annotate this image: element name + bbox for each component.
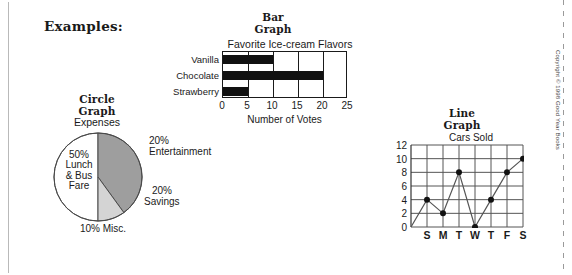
pie-label-entertainment-name: Entertainment	[149, 146, 211, 157]
line-x-tick-label: W	[470, 229, 480, 241]
line-y-tick-label: 12	[396, 140, 407, 151]
perforation-line	[563, 0, 564, 275]
line-x-tick-label: T	[456, 229, 462, 241]
line-x-tick-label: M	[439, 229, 448, 241]
line-graph-block: Line Graph Cars Sold 024681012SMTWTFS	[392, 108, 532, 244]
bar-plot-area: VanillaChocolateStrawberry	[222, 51, 347, 98]
line-chart-svg	[410, 144, 524, 228]
bar-x-tick-label: 15	[291, 100, 302, 111]
line-chart-title: Cars Sold	[410, 132, 532, 143]
line-data-point	[504, 169, 510, 175]
line-y-tick-label: 6	[401, 181, 407, 192]
pie-label-lunch-l2: Lunch	[54, 160, 104, 171]
copyright-notice: Copyright © 1998 Good Year Books	[555, 50, 561, 150]
line-x-tick-label: S	[423, 229, 430, 241]
line-y-tick-label: 10	[396, 153, 407, 164]
bar-graph-title-line2: Graph	[188, 24, 358, 36]
line-data-point	[456, 169, 462, 175]
circle-graph-subtitle: Expenses	[52, 117, 142, 129]
bar-x-tick-label: 5	[244, 100, 250, 111]
page-left-rule	[8, 2, 9, 273]
pie-label-savings: 20% Savings	[144, 185, 180, 207]
page-title: Examples:	[44, 18, 123, 34]
line-series-path	[411, 159, 523, 227]
bar-graph-heading: Bar Graph	[188, 12, 358, 35]
circle-graph-heading: Circle Graph Expenses	[52, 94, 142, 129]
bar-row	[223, 71, 323, 80]
pie-area: 50% Lunch & Bus Fare 20% Entertainment 2…	[52, 131, 142, 223]
bar-x-axis-label: Number of Votes	[222, 114, 347, 125]
line-y-tick-label: 8	[401, 167, 407, 178]
bar-plot-wrap: VanillaChocolateStrawberry 0510152025	[222, 51, 358, 98]
pie-label-misc: 10% Misc.	[80, 223, 126, 234]
bar-row	[223, 55, 273, 64]
bar-category-label: Chocolate	[176, 71, 219, 80]
bar-category-label: Strawberry	[173, 87, 219, 96]
line-x-tick-label: T	[488, 229, 494, 241]
bar-row	[223, 87, 248, 96]
bar-graph-block: Bar Graph Favorite Ice-cream Flavors Van…	[188, 12, 358, 125]
line-x-tick-label: F	[504, 229, 510, 241]
line-data-point	[424, 197, 430, 203]
bar-x-tick-label: 10	[266, 100, 277, 111]
line-y-tick-label: 4	[401, 194, 407, 205]
pie-label-savings-pct: 20%	[152, 185, 180, 196]
pie-label-savings-name: Savings	[144, 196, 180, 207]
bar-x-tick-label: 25	[341, 100, 352, 111]
line-data-point	[488, 197, 494, 203]
pie-label-entertainment-pct: 20%	[149, 135, 211, 146]
bar-category-label: Vanilla	[191, 55, 219, 64]
line-graph-heading: Line Graph	[392, 108, 532, 131]
line-graph-title-line2: Graph	[392, 120, 532, 132]
bar-x-tick-label: 0	[219, 100, 225, 111]
circle-graph-title-line1: Circle	[52, 94, 142, 106]
bar-x-tick-label: 20	[316, 100, 327, 111]
line-x-tick-label: S	[519, 229, 526, 241]
bar-chart-title: Favorite Ice-cream Flavors	[222, 38, 358, 50]
line-y-tick-label: 2	[401, 208, 407, 219]
line-data-point	[440, 210, 446, 216]
line-plot-area: 024681012SMTWTFS	[410, 144, 532, 244]
bar-graph-title-line1: Bar	[188, 12, 358, 24]
line-y-tick-label: 0	[401, 222, 407, 233]
pie-label-entertainment: 20% Entertainment	[149, 135, 211, 157]
circle-graph-block: Circle Graph Expenses 50% Lunch & Bus Fa…	[52, 94, 142, 223]
pie-label-lunch-l4: Fare	[54, 181, 104, 192]
worksheet-page: Copyright © 1998 Good Year Books Example…	[0, 0, 572, 275]
pie-label-lunch-bus-fare: 50% Lunch & Bus Fare	[54, 150, 104, 192]
line-graph-title-line1: Line	[392, 108, 532, 120]
